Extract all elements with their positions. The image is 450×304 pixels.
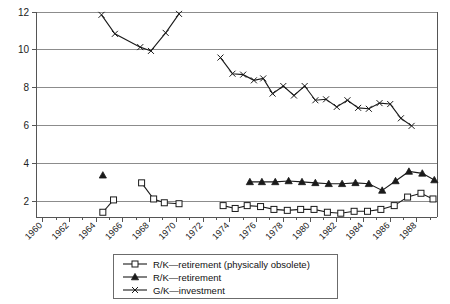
y-axis-label-6: 6 — [23, 120, 29, 131]
gridlines-group — [36, 12, 437, 202]
data-point — [99, 172, 106, 178]
data-point — [379, 187, 386, 193]
data-point — [284, 207, 290, 213]
data-point — [338, 210, 344, 216]
chart-svg: 24681012 1960196219641966196819701972197… — [0, 0, 450, 304]
x-axis-label-1972: 1972 — [183, 220, 204, 241]
x-axis-label-1988: 1988 — [397, 220, 418, 241]
data-point — [176, 201, 182, 207]
legend-marker-open-square-icon — [132, 261, 138, 267]
chart-container: 24681012 1960196219641966196819701972197… — [0, 0, 450, 304]
x-axis-label-1968: 1968 — [130, 220, 151, 241]
data-point — [148, 48, 154, 54]
y-axis-label-8: 8 — [23, 82, 29, 93]
series-line — [142, 183, 179, 204]
legend-label: R/K—retirement — [153, 272, 221, 283]
data-point — [324, 209, 330, 215]
data-point — [298, 206, 304, 212]
data-point — [271, 206, 277, 212]
axes-group — [36, 12, 437, 217]
data-point — [334, 104, 340, 110]
x-axis-label-1976: 1976 — [237, 220, 258, 241]
x-axis-label-1966: 1966 — [103, 220, 124, 241]
x-axis-label-1982: 1982 — [317, 220, 338, 241]
x-axis-label-1978: 1978 — [263, 220, 284, 241]
y-axis-label-4: 4 — [23, 158, 29, 169]
series-line — [220, 58, 411, 126]
data-point — [344, 97, 350, 103]
data-point — [352, 179, 359, 185]
y-axis-ticks-group — [32, 12, 36, 202]
y-axis-label-12: 12 — [18, 7, 30, 18]
data-point — [232, 205, 238, 211]
x-axis-label-1974: 1974 — [210, 220, 231, 241]
data-point — [98, 12, 104, 18]
chart-legend: R/K—retirement (physically obsolete)R/K—… — [113, 254, 337, 298]
x-axis-label-1980: 1980 — [290, 220, 311, 241]
data-point — [111, 197, 117, 203]
x-axis-label-1970: 1970 — [157, 220, 178, 241]
data-point — [378, 206, 384, 212]
data-point — [285, 177, 292, 183]
data-point — [137, 44, 143, 50]
y-axis-labels-group: 24681012 — [18, 7, 30, 208]
legend-label: R/K—retirement (physically obsolete) — [153, 259, 310, 270]
x-axis-labels-group: 1960196219641966196819701972197419761978… — [23, 220, 419, 241]
data-point — [291, 93, 297, 99]
data-point — [270, 91, 276, 97]
x-axis-ticks-group — [43, 217, 431, 222]
legend-label: G/K—investment — [153, 285, 225, 296]
x-axis-label-1984: 1984 — [344, 220, 365, 241]
data-point — [217, 55, 223, 61]
data-point — [244, 203, 250, 209]
data-point — [398, 115, 404, 121]
y-axis-label-10: 10 — [18, 44, 30, 55]
data-point — [112, 31, 118, 37]
x-axis-label-1986: 1986 — [370, 220, 391, 241]
data-point — [258, 204, 264, 210]
x-axis-label-1964: 1964 — [76, 220, 97, 241]
y-axis-label-2: 2 — [23, 196, 29, 207]
data-point — [430, 196, 436, 202]
data-series-group — [98, 11, 437, 216]
data-point — [364, 208, 370, 214]
series-2 — [98, 11, 414, 129]
x-axis-label-1962: 1962 — [50, 220, 71, 241]
data-point — [151, 196, 157, 202]
data-point — [391, 203, 397, 209]
data-point — [418, 190, 424, 196]
data-point — [163, 30, 169, 36]
data-point — [100, 209, 106, 215]
data-point — [351, 208, 357, 214]
data-point — [311, 206, 317, 212]
series-0 — [100, 180, 436, 216]
data-point — [139, 180, 145, 186]
x-axis-label-1960: 1960 — [23, 220, 44, 241]
series-1 — [99, 168, 438, 193]
data-point — [405, 168, 412, 174]
data-point — [405, 194, 411, 200]
data-point — [392, 177, 399, 183]
data-point — [161, 200, 167, 206]
data-point — [220, 203, 226, 209]
